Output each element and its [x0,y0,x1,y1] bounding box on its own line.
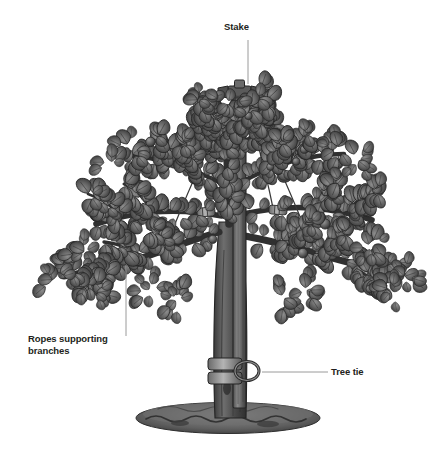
staked-tree-illustration [0,0,431,460]
label-tree-tie: Tree tie [331,366,363,378]
label-stake: Stake [224,21,249,33]
label-ropes-supporting-branches: Ropes supporting branches [28,333,108,356]
